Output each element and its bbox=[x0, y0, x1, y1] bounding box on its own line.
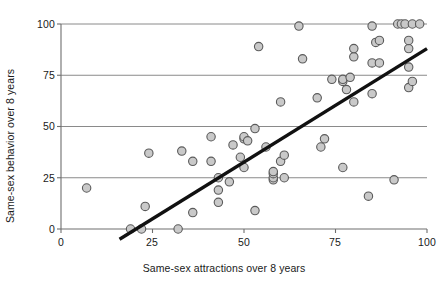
data-point bbox=[298, 55, 306, 63]
data-point bbox=[368, 90, 376, 98]
data-point bbox=[390, 176, 398, 184]
data-point bbox=[408, 77, 416, 85]
data-point bbox=[207, 133, 215, 141]
data-point bbox=[174, 225, 182, 233]
data-point bbox=[364, 192, 372, 200]
data-point bbox=[251, 124, 259, 132]
data-point bbox=[178, 147, 186, 155]
data-point bbox=[320, 135, 328, 143]
data-point bbox=[280, 151, 288, 159]
scatter-chart-figure: Same-sex behavior over 8 years 100 75 50… bbox=[0, 0, 448, 291]
plot-area bbox=[0, 0, 448, 291]
data-point bbox=[342, 85, 350, 93]
data-point bbox=[339, 163, 347, 171]
data-point bbox=[280, 174, 288, 182]
data-point bbox=[145, 149, 153, 157]
data-point bbox=[350, 53, 358, 61]
data-point bbox=[269, 167, 277, 175]
data-point bbox=[313, 94, 321, 102]
data-point bbox=[251, 206, 259, 214]
data-point bbox=[214, 198, 222, 206]
data-point bbox=[317, 143, 325, 151]
data-point bbox=[189, 208, 197, 216]
x-axis-title: Same-sex attractions over 8 years bbox=[0, 262, 448, 274]
data-point bbox=[236, 153, 244, 161]
data-point bbox=[405, 63, 413, 71]
regression-trendline bbox=[120, 49, 427, 240]
data-point bbox=[375, 59, 383, 67]
data-point bbox=[346, 73, 354, 81]
data-point bbox=[295, 22, 303, 30]
data-point bbox=[243, 137, 251, 145]
data-point bbox=[350, 44, 358, 52]
data-point bbox=[229, 141, 237, 149]
data-point bbox=[254, 42, 262, 50]
data-point bbox=[328, 75, 336, 83]
data-point bbox=[189, 157, 197, 165]
data-point bbox=[415, 20, 423, 28]
data-point bbox=[405, 44, 413, 52]
axis-ticks-group bbox=[57, 24, 427, 233]
trendline-group bbox=[120, 49, 427, 240]
data-point bbox=[350, 98, 358, 106]
data-point bbox=[375, 36, 383, 44]
data-point bbox=[368, 22, 376, 30]
data-point bbox=[225, 178, 233, 186]
data-point bbox=[276, 98, 284, 106]
data-point bbox=[405, 36, 413, 44]
data-point bbox=[207, 157, 215, 165]
data-point bbox=[141, 202, 149, 210]
data-point bbox=[82, 184, 90, 192]
data-point bbox=[214, 186, 222, 194]
